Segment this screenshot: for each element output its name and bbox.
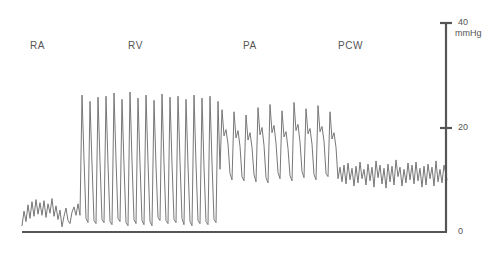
axis-tick-label-40: 40 [458,17,468,27]
axis-tick-label-0: 0 [458,226,463,236]
axis-unit-label: mmHg [455,28,482,39]
phase-label-pa: PA [243,40,257,51]
phase-label-rv: RV [128,40,143,51]
axis-tick-label-20: 20 [458,122,468,132]
waveform-chart [0,0,503,256]
phase-label-ra: RA [30,40,45,51]
pressure-tracing-figure: RA RV PA PCW 40 mmHg 20 0 [0,0,503,256]
pressure-trace-line [22,92,447,227]
phase-label-pcw: PCW [338,40,363,51]
